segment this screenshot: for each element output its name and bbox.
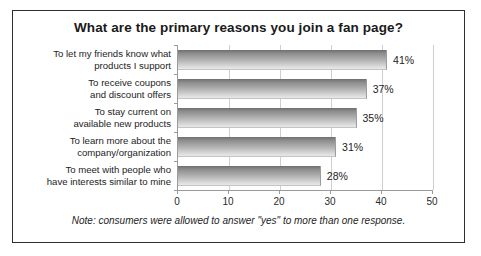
x-axis-tick-label: 30 [324, 196, 335, 207]
bar-row: 31% [178, 132, 432, 161]
category-label-line: To learn more about the [70, 135, 171, 147]
category-label-line: To meet with people who [65, 164, 171, 176]
x-axis-tick [381, 190, 382, 194]
category-label-line: available new products [73, 118, 171, 130]
x-axis-tick-label: 50 [426, 196, 437, 207]
y-axis-tick [174, 45, 178, 46]
category-axis-labels: To let my friends know whatproducts I su… [17, 45, 174, 190]
category-label-line: To let my friends know what [53, 48, 171, 60]
bar-series: 41%37%35%31%28% [178, 45, 432, 190]
bar-value-label: 31% [342, 141, 363, 153]
category-label: To stay current onavailable new products [17, 103, 174, 132]
chart-footnote: Note: consumers were allowed to answer "… [13, 215, 464, 226]
plot-area: 41%37%35%31%28% [177, 45, 432, 190]
bar [178, 50, 387, 70]
bar-value-label: 41% [393, 54, 414, 66]
bar-value-label: 35% [363, 112, 384, 124]
x-axis-tick [177, 190, 178, 194]
x-axis-tick [432, 190, 433, 194]
category-label-line: products I support [94, 60, 171, 72]
category-label: To learn more about thecompany/organizat… [17, 132, 174, 161]
x-axis-tick-label: 10 [222, 196, 233, 207]
bar-row: 35% [178, 103, 432, 132]
x-axis-tick-label: 0 [174, 196, 180, 207]
bar-value-label: 37% [373, 83, 394, 95]
bar [178, 79, 367, 99]
bar-row: 37% [178, 74, 432, 103]
x-axis-tick [228, 190, 229, 194]
category-label-line: To stay current on [95, 106, 171, 118]
bar-row: 28% [178, 161, 432, 190]
y-axis-tick [174, 103, 178, 104]
y-axis-tick [174, 161, 178, 162]
category-label: To receive couponsand discount offers [17, 74, 174, 103]
category-label: To let my friends know whatproducts I su… [17, 45, 174, 74]
chart-title: What are the primary reasons you join a … [13, 20, 464, 35]
bar-row: 41% [178, 45, 432, 74]
x-axis-tick-label: 20 [273, 196, 284, 207]
bar [178, 108, 357, 128]
x-axis-tick [279, 190, 280, 194]
y-axis-tick [174, 74, 178, 75]
category-label-line: and discount offers [90, 89, 171, 101]
chart-frame: What are the primary reasons you join a … [12, 10, 465, 243]
x-axis-tick [330, 190, 331, 194]
x-axis: 01020304050 [177, 190, 432, 191]
y-axis-tick [174, 132, 178, 133]
category-label-line: To receive coupons [88, 77, 171, 89]
gridline [433, 45, 434, 190]
category-label: To meet with people whohave interests si… [17, 161, 174, 190]
category-label-line: company/organization [77, 147, 171, 159]
x-axis-tick-label: 40 [375, 196, 386, 207]
plot-wrapper: To let my friends know whatproducts I su… [13, 45, 466, 205]
bar [178, 166, 321, 186]
bar [178, 137, 336, 157]
category-label-line: have interests similar to mine [47, 176, 171, 188]
bar-value-label: 28% [327, 170, 348, 182]
